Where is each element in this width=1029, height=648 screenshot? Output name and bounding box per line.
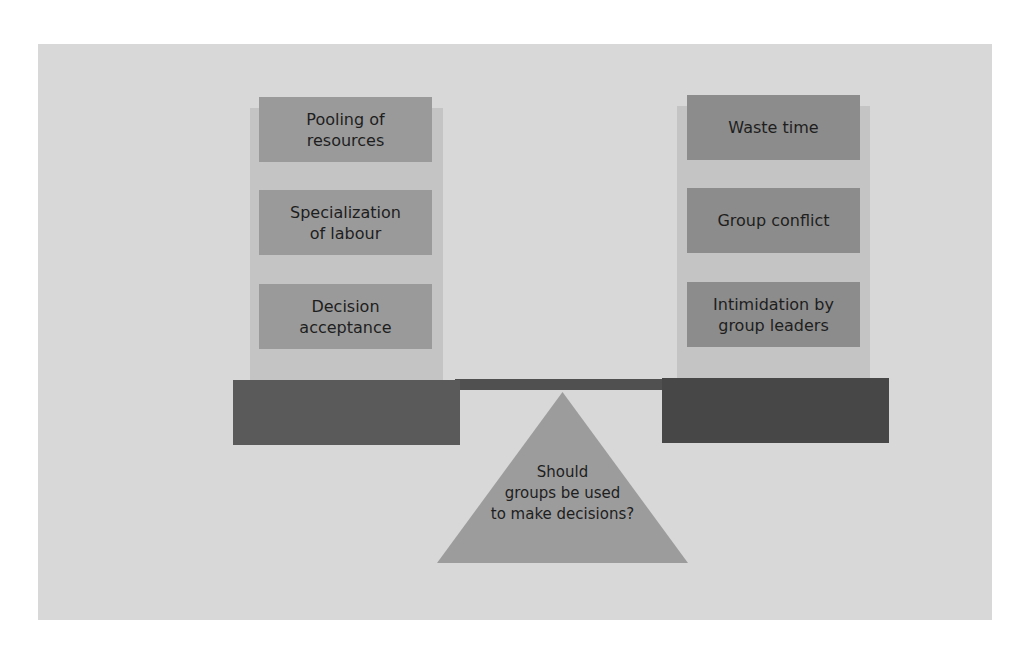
fulcrum-line-1: Should xyxy=(437,462,688,483)
right-item-2-line-1: Group conflict xyxy=(717,210,829,231)
left-item-1-line-2: resources xyxy=(306,130,384,151)
left-item-decision-acceptance: Decision acceptance xyxy=(259,284,432,349)
left-item-specialization-of-labour: Specialization of labour xyxy=(259,190,432,255)
right-item-intimidation-by-group-leaders: Intimidation by group leaders xyxy=(687,282,860,347)
right-item-3-line-1: Intimidation by xyxy=(713,294,834,315)
right-item-3-line-2: group leaders xyxy=(713,315,834,336)
right-item-waste-time: Waste time xyxy=(687,95,860,160)
balance-beam xyxy=(455,379,667,390)
fulcrum-question: Should groups be used to make decisions? xyxy=(437,462,688,525)
right-scale-base xyxy=(662,378,889,443)
left-scale-base xyxy=(233,380,460,445)
left-item-2-line-2: of labour xyxy=(290,223,401,244)
left-item-3-line-1: Decision xyxy=(299,296,391,317)
left-item-1-line-1: Pooling of xyxy=(306,109,384,130)
right-item-1-line-1: Waste time xyxy=(728,117,818,138)
left-item-pooling-of-resources: Pooling of resources xyxy=(259,97,432,162)
left-item-2-line-1: Specialization xyxy=(290,202,401,223)
left-item-3-line-2: acceptance xyxy=(299,317,391,338)
fulcrum-line-3: to make decisions? xyxy=(437,504,688,525)
fulcrum-line-2: groups be used xyxy=(437,483,688,504)
right-item-group-conflict: Group conflict xyxy=(687,188,860,253)
